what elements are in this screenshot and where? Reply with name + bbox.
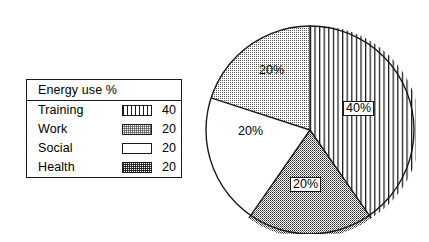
pie-svg: [204, 22, 416, 234]
legend-header: Energy use %: [27, 80, 181, 101]
legend-swatch-training: [122, 105, 152, 116]
pie-label-social: 20%: [237, 125, 264, 138]
legend-value-work: 20: [158, 123, 176, 136]
legend-swatch-health: [122, 162, 152, 173]
pie-label-training: 40%: [343, 101, 374, 116]
legend-value-health: 20: [158, 161, 176, 174]
figure-energy-use: Energy use % Training 40 Work 20 Social …: [0, 0, 429, 242]
legend-title: Energy use %: [38, 84, 117, 97]
pie-label-work: 20%: [258, 64, 285, 77]
legend-rows: Training 40 Work 20 Social 20 Health 20: [27, 101, 181, 177]
legend: Energy use % Training 40 Work 20 Social …: [26, 79, 182, 178]
legend-label-health: Health: [38, 161, 122, 174]
legend-value-training: 40: [158, 104, 176, 117]
legend-row-training: Training 40: [27, 101, 181, 120]
legend-label-social: Social: [38, 142, 122, 155]
legend-row-health: Health 20: [27, 158, 181, 177]
legend-value-social: 20: [158, 142, 176, 155]
legend-label-training: Training: [38, 104, 122, 117]
legend-row-social: Social 20: [27, 139, 181, 158]
legend-label-work: Work: [38, 123, 122, 136]
legend-row-work: Work 20: [27, 120, 181, 139]
pie-chart: 40% 20% 20% 20%: [204, 22, 416, 234]
pie-label-health: 20%: [290, 177, 321, 192]
legend-swatch-work: [122, 124, 152, 135]
legend-swatch-social: [122, 143, 152, 154]
